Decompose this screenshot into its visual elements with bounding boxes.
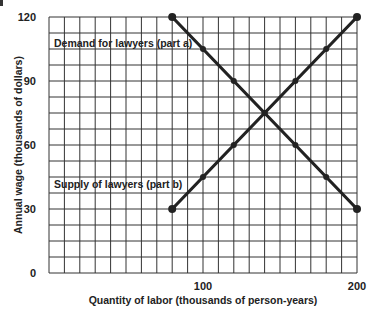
data-point [200, 174, 206, 180]
x-axis-ticks: 100200 [194, 280, 366, 292]
data-point [231, 142, 237, 148]
x-axis-title: Quantity of labor (thousands of person-y… [89, 294, 318, 306]
y-tick-label: 90 [24, 75, 36, 87]
demand-label: Demand for lawyers (part a) [54, 37, 192, 49]
data-point [323, 46, 329, 52]
data-point [292, 142, 298, 148]
y-tick-label: 60 [24, 139, 36, 151]
data-point [168, 205, 176, 213]
y-axis-title: Annual wage (thousands of dollars) [12, 56, 24, 234]
y-tick-label: 120 [18, 11, 36, 23]
data-point [353, 13, 361, 21]
data-point [168, 13, 176, 21]
data-point [200, 46, 206, 52]
data-point [292, 78, 298, 84]
x-tick-label: 100 [194, 280, 212, 292]
data-point [262, 110, 268, 116]
supply-label: Supply of lawyers (part b) [54, 178, 182, 190]
data-point [231, 78, 237, 84]
x-tick-label: 200 [348, 280, 366, 292]
grid [49, 17, 357, 273]
data-point [353, 205, 361, 213]
y-tick-label: 30 [24, 203, 36, 215]
y-tick-label: 0 [30, 267, 36, 279]
data-point [323, 174, 329, 180]
supply-demand-chart: 0306090120 100200 Demand for lawyers (pa… [0, 0, 378, 314]
